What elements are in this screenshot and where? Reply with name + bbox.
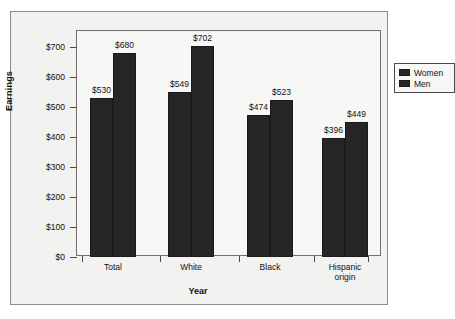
bar-men-1: [191, 46, 214, 257]
bar-men-3: [345, 122, 368, 257]
x-tick-mark: [239, 256, 240, 262]
y-tick-label: $500: [21, 102, 65, 112]
y-tick-mark: [70, 77, 77, 78]
bar-women-3: [322, 138, 345, 257]
y-tick-label: $100: [21, 222, 65, 232]
bar-value-label: $549: [169, 79, 190, 89]
x-tick-mark: [368, 256, 369, 262]
bar-value-label: $523: [271, 87, 292, 97]
y-tick-label: $200: [21, 192, 65, 202]
bar-men-2: [270, 100, 293, 257]
x-tick-label: Black: [260, 262, 281, 272]
legend-item-women: Women: [399, 67, 450, 78]
y-tick-mark: [70, 227, 77, 228]
bar-value-label: $396: [323, 125, 344, 135]
bar-women-2: [247, 115, 270, 257]
y-tick-label: $0: [21, 252, 65, 262]
y-tick-label: $300: [21, 162, 65, 172]
legend-swatch-women-icon: [399, 69, 410, 76]
x-tick-label: White: [180, 262, 202, 272]
bar-men-0: [113, 53, 136, 257]
y-tick-mark: [70, 47, 77, 48]
x-tick-label: Hispanic origin: [329, 262, 362, 282]
x-tick-label: Total: [104, 262, 122, 272]
bar-value-label: $530: [91, 85, 112, 95]
legend-label-men: Men: [414, 79, 431, 89]
bar-women-0: [90, 98, 113, 257]
plot-frame: $0$100$200$300$400$500$600$700 $530$680$…: [76, 30, 381, 256]
bar-value-label: $680: [114, 40, 135, 50]
y-tick-mark: [70, 167, 77, 168]
x-tick-mark: [160, 256, 161, 262]
bar-value-label: $474: [248, 102, 269, 112]
legend-swatch-men-icon: [399, 80, 410, 87]
y-tick-mark: [70, 107, 77, 108]
x-tick-mark: [314, 256, 315, 262]
legend-label-women: Women: [414, 68, 443, 78]
y-tick-label: $600: [21, 72, 65, 82]
bar-value-label: $702: [192, 33, 213, 43]
bar-women-1: [168, 92, 191, 257]
chart-legend: Women Men: [394, 63, 455, 93]
bar-value-label: $449: [346, 109, 367, 119]
legend-item-men: Men: [399, 78, 450, 89]
x-axis-title: Year: [0, 286, 396, 296]
y-tick-mark: [70, 137, 77, 138]
y-axis-title: Earnings: [4, 46, 14, 136]
y-tick-label: $700: [21, 42, 65, 52]
x-tick-mark: [82, 256, 83, 262]
y-tick-mark: [70, 197, 77, 198]
y-tick-mark: [70, 257, 77, 258]
plot-area: $0$100$200$300$400$500$600$700 $530$680$…: [77, 31, 380, 255]
y-tick-label: $400: [21, 132, 65, 142]
